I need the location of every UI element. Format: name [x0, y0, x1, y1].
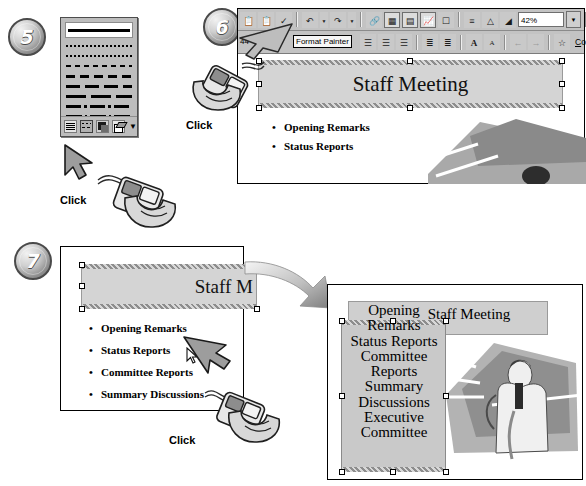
drawing-toolbar: ▼: [61, 116, 137, 136]
step-number: 6: [215, 16, 228, 38]
body-line: Committee: [334, 425, 454, 440]
expand-all-icon[interactable]: ≡: [464, 12, 480, 28]
new-slide-icon[interactable]: ☐: [438, 12, 454, 28]
step7-after-panel: Staff Meeting Opening Remarks Status Rep…: [327, 284, 583, 480]
slide6-canvas: Staff Meeting Opening Remarks Status Rep…: [238, 54, 584, 183]
body-line: Discussions: [334, 395, 454, 410]
3d-icon[interactable]: [112, 120, 125, 133]
resize-handle-sw[interactable]: [339, 469, 345, 475]
format-painter-tooltip: Format Painter: [293, 35, 352, 48]
insert-worksheet-icon[interactable]: ▤: [402, 12, 418, 28]
mouse-click-graphic-step5: [95, 170, 187, 232]
align-right-icon[interactable]: ☰: [396, 34, 412, 50]
show-formatting-icon[interactable]: △: [482, 12, 498, 28]
grayscale-preview-icon[interactable]: ◢: [500, 12, 516, 28]
resize-handle-s[interactable]: [390, 469, 396, 475]
insert-table-icon[interactable]: ▦: [384, 12, 400, 28]
resize-handle-nw[interactable]: [79, 262, 85, 268]
toolbar-separator: [460, 35, 462, 50]
body-line: Summary: [334, 379, 454, 394]
resize-handle-sw[interactable]: [79, 306, 85, 312]
slide6-bullet-list: Opening Remarks Status Reports: [284, 118, 370, 156]
toolbar-separator: [296, 12, 298, 27]
common-tasks-rest: ommon Tasks: [581, 37, 586, 47]
list-item: Opening Remarks: [284, 118, 370, 137]
toolbar-separator: [458, 12, 460, 27]
toolbar-separator: [504, 35, 506, 50]
body-line: Executive: [334, 410, 454, 425]
slide6-title-box[interactable]: Staff Meeting: [258, 60, 563, 108]
presenter-clipart-partial: [418, 116, 586, 184]
palette-line-option[interactable]: [66, 61, 132, 71]
shadow-icon[interactable]: [96, 120, 109, 133]
presenter-clipart: [436, 333, 582, 463]
body-line: Opening: [334, 303, 454, 318]
promote-icon[interactable]: ←: [510, 34, 526, 50]
palette-line-option[interactable]: [66, 51, 132, 61]
toolbar-separator: [548, 35, 550, 50]
step-badge-5: 5: [8, 18, 46, 56]
zoom-dropdown-icon[interactable]: ▼: [566, 11, 581, 28]
resize-handle-s[interactable]: [407, 105, 413, 111]
step-number: 5: [20, 26, 33, 48]
body-line: Reports: [334, 364, 454, 379]
resize-handle-e[interactable]: [559, 81, 565, 87]
dash-style-icon[interactable]: [80, 120, 93, 133]
numbered-list-icon[interactable]: ≣: [422, 34, 438, 50]
resize-handle-w[interactable]: [79, 283, 85, 289]
mouse-click-graphic-step6: [190, 58, 268, 118]
click-label-step7: Click: [169, 434, 195, 446]
slide7-after-canvas: Staff Meeting Opening Remarks Status Rep…: [328, 285, 582, 479]
align-left-icon[interactable]: ☰: [360, 34, 376, 50]
redo-dropdown-icon[interactable]: ▼: [348, 12, 356, 28]
title-box-hatch-bottom: [82, 304, 256, 309]
more-caret-icon[interactable]: ▼: [129, 123, 137, 131]
redo-icon[interactable]: ↷: [330, 12, 346, 28]
insert-hyperlink-icon[interactable]: 🔗: [366, 12, 382, 28]
list-item: Summary Discussions: [101, 383, 204, 405]
decrease-font-size-icon[interactable]: A: [484, 34, 500, 50]
align-center-icon[interactable]: ☰: [378, 34, 394, 50]
arrow-cursor-step6: [234, 22, 296, 62]
mouse-click-graphic-step7: [203, 385, 291, 447]
palette-line-option[interactable]: [66, 101, 132, 111]
increase-font-size-icon[interactable]: A: [466, 34, 482, 50]
slide7-title-box[interactable]: Staff M: [81, 264, 257, 309]
bulleted-list-icon[interactable]: ≣: [440, 34, 456, 50]
list-item: Status Reports: [284, 137, 370, 156]
resize-handle-n[interactable]: [407, 58, 413, 64]
click-label-step6: Click: [186, 119, 212, 131]
title-box-hatch-top: [82, 264, 256, 269]
demote-icon[interactable]: →: [528, 34, 544, 50]
common-tasks-label[interactable]: Common Tasks: [575, 37, 586, 47]
body-line: Remarks: [334, 318, 454, 333]
step-badge-7: 7: [14, 242, 52, 280]
zoom-input[interactable]: 42%: [518, 12, 564, 27]
undo-icon[interactable]: ↶: [302, 12, 318, 28]
slide6-title-text: Staff Meeting: [353, 72, 469, 97]
resize-handle-se[interactable]: [559, 105, 565, 111]
click-label-step5: Click: [60, 194, 86, 206]
palette-line-option[interactable]: [66, 41, 132, 51]
body-line: Committee: [334, 349, 454, 364]
transition-arrow-icon: [243, 256, 339, 322]
resize-handle-ne[interactable]: [559, 58, 565, 64]
line-style-icon[interactable]: [64, 120, 77, 133]
toolbar-separator: [360, 12, 362, 27]
palette-line-option[interactable]: [66, 91, 132, 101]
common-tasks-icon[interactable]: ☆: [554, 34, 570, 50]
slide7-after-body-text: Opening Remarks Status Reports Committee…: [334, 303, 454, 441]
body-line: Status Reports: [334, 334, 454, 349]
insert-chart-icon[interactable]: 📈: [420, 12, 436, 28]
palette-selected-row[interactable]: [65, 22, 133, 38]
toolbar-separator: [416, 35, 418, 50]
undo-dropdown-icon[interactable]: ▼: [320, 12, 328, 28]
step-number: 7: [26, 250, 39, 272]
arrow-cursor-step7: [180, 333, 240, 379]
line-style-palette[interactable]: ▼: [60, 17, 138, 137]
resize-handle-se[interactable]: [443, 469, 449, 475]
palette-line-option[interactable]: [66, 71, 132, 81]
palette-line-option[interactable]: [66, 81, 132, 91]
